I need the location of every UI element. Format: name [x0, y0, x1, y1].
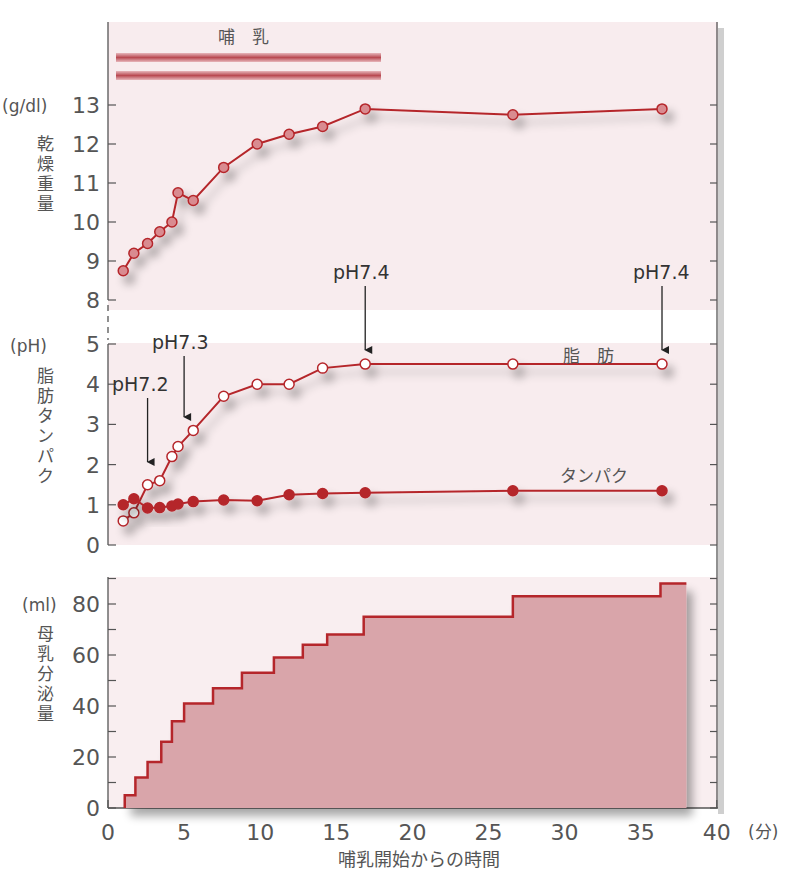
svg-text:0: 0 [86, 533, 100, 558]
y-tick-label: 8 [86, 288, 100, 313]
bot-unit: (ml) [22, 595, 57, 615]
svg-text:乳: 乳 [37, 644, 54, 664]
x-axis-unit: (分) [748, 822, 778, 842]
ph-annotation: pH7.4 [633, 261, 690, 283]
svg-text:ン: ン [37, 426, 54, 446]
svg-text:2: 2 [86, 453, 100, 478]
svg-text:1: 1 [86, 493, 100, 518]
y-axis-titles: 乾燥重量脂肪タンパク母乳分泌量 [37, 134, 54, 724]
y-tick-label: 12 [72, 132, 100, 157]
svg-text:量: 量 [37, 194, 54, 214]
svg-text:母: 母 [37, 624, 54, 644]
svg-text:0: 0 [101, 820, 115, 845]
protein-legend-label: タンパク [560, 466, 628, 486]
svg-text:重: 重 [37, 174, 54, 194]
mid-unit: (pH) [10, 336, 47, 356]
svg-text:脂: 脂 [37, 366, 54, 386]
fat-legend-label: 脂 肪 [563, 346, 614, 366]
svg-text:35: 35 [627, 820, 655, 845]
svg-text:ク: ク [37, 466, 54, 486]
svg-text:40: 40 [72, 694, 100, 719]
right-shadow-edge [718, 28, 724, 814]
svg-text:20: 20 [398, 820, 426, 845]
nursing-label: 哺 乳 [218, 27, 269, 47]
svg-text:10: 10 [246, 820, 274, 845]
svg-text:パ: パ [37, 446, 54, 466]
y-tick-label: 10 [72, 210, 100, 235]
svg-text:0: 0 [86, 796, 100, 821]
y-tick-label: 11 [72, 171, 100, 196]
svg-text:3: 3 [86, 412, 100, 437]
svg-text:30: 30 [551, 820, 579, 845]
svg-text:分: 分 [37, 664, 54, 684]
top-panel-bg [108, 22, 718, 310]
svg-text:乾: 乾 [37, 134, 54, 154]
svg-text:泌: 泌 [37, 684, 54, 704]
svg-text:タ: タ [37, 406, 54, 426]
breastfeeding-chart: 8910111213012345020406080051015202530354… [0, 0, 788, 893]
svg-text:4: 4 [86, 372, 100, 397]
svg-text:20: 20 [72, 745, 100, 770]
top-unit: (g/dl) [2, 96, 47, 116]
y-tick-label: 9 [86, 249, 100, 274]
ph-annotation: pH7.4 [333, 261, 390, 283]
svg-text:5: 5 [86, 332, 100, 357]
mid-panel-bg [108, 343, 718, 545]
ph-annotation: pH7.2 [112, 373, 169, 395]
svg-text:60: 60 [72, 643, 100, 668]
svg-text:15: 15 [322, 820, 350, 845]
svg-text:5: 5 [177, 820, 191, 845]
svg-text:80: 80 [72, 592, 100, 617]
x-axis-title: 哺乳開始からの時間 [338, 849, 500, 870]
svg-text:燥: 燥 [37, 154, 54, 174]
y-tick-label: 13 [72, 93, 100, 118]
svg-text:40: 40 [703, 820, 731, 845]
ph-annotation: pH7.3 [152, 331, 209, 353]
svg-text:量: 量 [37, 704, 54, 724]
svg-text:25: 25 [475, 820, 503, 845]
svg-text:肪: 肪 [37, 386, 54, 406]
